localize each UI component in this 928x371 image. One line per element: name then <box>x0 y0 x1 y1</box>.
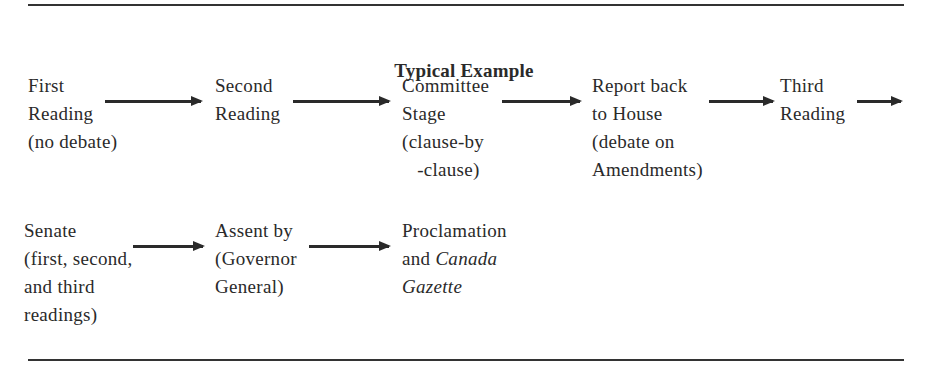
stage-second-reading: Second Reading <box>215 72 280 128</box>
stage-line: (clause-by <box>402 128 489 156</box>
arrow-icon <box>309 245 389 248</box>
arrow-icon <box>709 100 773 103</box>
stage-line: to House <box>592 100 703 128</box>
top-rule <box>28 4 904 6</box>
stage-line: General) <box>215 273 297 301</box>
stage-assent: Assent by (Governor General) <box>215 217 297 301</box>
arrow-icon <box>502 100 580 103</box>
stage-line: and Canada <box>402 245 507 273</box>
arrow-icon <box>857 100 901 103</box>
stage-line: (no debate) <box>28 128 117 156</box>
stage-line: Senate <box>24 217 132 245</box>
stage-report-back: Report back to House (debate on Amendmen… <box>592 72 703 184</box>
gazette-italic: Gazette <box>402 273 507 301</box>
stage-line: Reading <box>28 100 117 128</box>
stage-third-reading: Third Reading <box>780 72 845 128</box>
stage-line: Report back <box>592 72 703 100</box>
arrow-icon <box>105 100 201 103</box>
stage-line: Amendments) <box>592 156 703 184</box>
stage-line: Proclamation <box>402 217 507 245</box>
canada-italic: Canada <box>435 248 497 269</box>
stage-first-reading: First Reading (no debate) <box>28 72 117 156</box>
bottom-rule <box>28 359 904 361</box>
stage-line: Stage <box>402 100 489 128</box>
stage-line: Assent by <box>215 217 297 245</box>
stage-line: (first, second, <box>24 245 132 273</box>
stage-line: Committee <box>402 72 489 100</box>
line-prefix: and <box>402 248 435 269</box>
stage-line: Second <box>215 72 280 100</box>
stage-line: First <box>28 72 117 100</box>
stage-committee: Committee Stage (clause-by -clause) <box>402 72 489 184</box>
stage-line: -clause) <box>402 156 489 184</box>
stage-line: (Governor <box>215 245 297 273</box>
arrow-icon <box>293 100 389 103</box>
stage-line: and third <box>24 273 132 301</box>
stage-line: readings) <box>24 301 132 329</box>
stage-line: (debate on <box>592 128 703 156</box>
arrow-icon <box>133 245 203 248</box>
stage-line: Reading <box>215 100 280 128</box>
stage-line: Third <box>780 72 845 100</box>
stage-proclamation: Proclamation and Canada Gazette <box>402 217 507 301</box>
stage-line: Reading <box>780 100 845 128</box>
stage-senate: Senate (first, second, and third reading… <box>24 217 132 329</box>
